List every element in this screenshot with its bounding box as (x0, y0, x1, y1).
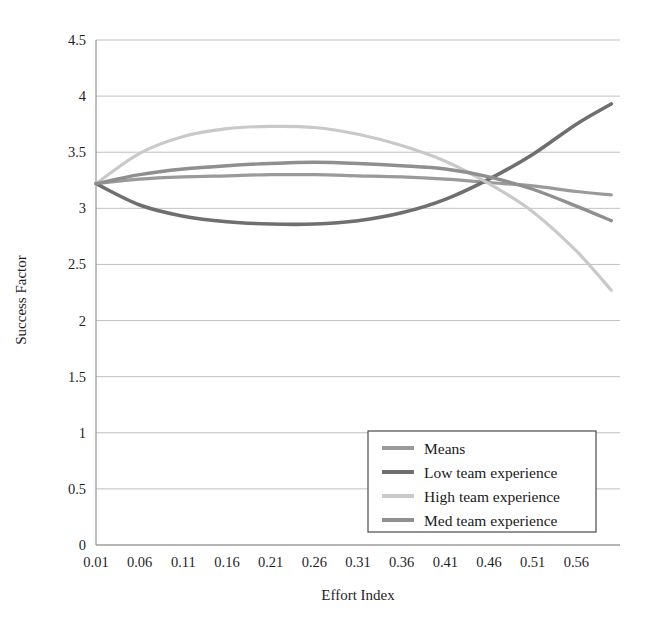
y-tick-label: 1 (79, 425, 86, 441)
x-tick-label: 0.16 (214, 554, 239, 570)
x-tick-label: 0.56 (564, 554, 589, 570)
x-tick-label: 0.11 (171, 554, 196, 570)
x-tick-label: 0.31 (345, 554, 370, 570)
x-tick-label: 0.36 (389, 554, 414, 570)
y-tick-label: 4 (79, 88, 87, 104)
y-tick-label: 3.5 (68, 144, 86, 160)
series-line-means (96, 175, 611, 195)
y-tick-label: 0 (79, 537, 86, 553)
legend-label: Med team experience (424, 512, 558, 529)
x-tick-label: 0.21 (258, 554, 283, 570)
y-tick-label: 0.5 (68, 481, 86, 497)
x-axis-title: Effort Index (321, 587, 395, 603)
x-tick-label: 0.26 (302, 554, 327, 570)
y-tick-label: 4.5 (68, 32, 86, 48)
y-axis-tick-labels: 00.511.522.533.544.5 (68, 32, 87, 553)
x-tick-label: 0.01 (83, 554, 108, 570)
x-tick-label: 0.41 (433, 554, 458, 570)
legend-label: High team experience (424, 488, 560, 505)
legend-label: Means (424, 440, 465, 457)
legend-label: Low team experience (424, 464, 558, 481)
x-tick-label: 0.06 (127, 554, 152, 570)
y-tick-label: 2.5 (68, 256, 86, 272)
data-series (96, 104, 611, 290)
x-tick-label: 0.51 (520, 554, 545, 570)
chart-container: 00.511.522.533.544.5 0.010.060.110.160.2… (0, 0, 645, 628)
x-tick-label: 0.46 (476, 554, 501, 570)
y-tick-label: 1.5 (68, 369, 86, 385)
line-chart: 00.511.522.533.544.5 0.010.060.110.160.2… (0, 0, 645, 628)
y-axis-title: Success Factor (13, 255, 29, 345)
y-tick-label: 2 (79, 313, 86, 329)
chart-legend: MeansLow team experienceHigh team experi… (368, 431, 596, 532)
y-tick-label: 3 (79, 200, 86, 216)
x-axis-tick-labels: 0.010.060.110.160.210.260.310.360.410.46… (83, 554, 589, 570)
